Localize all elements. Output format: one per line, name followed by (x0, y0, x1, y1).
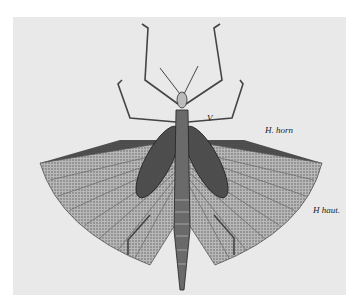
label-v: V (207, 113, 213, 123)
label-h-horn: H. horn (265, 125, 293, 135)
grasshopper-illustration (0, 0, 357, 305)
head (177, 92, 187, 108)
antennae (160, 66, 198, 94)
label-h-haut: H haut. (313, 205, 340, 215)
